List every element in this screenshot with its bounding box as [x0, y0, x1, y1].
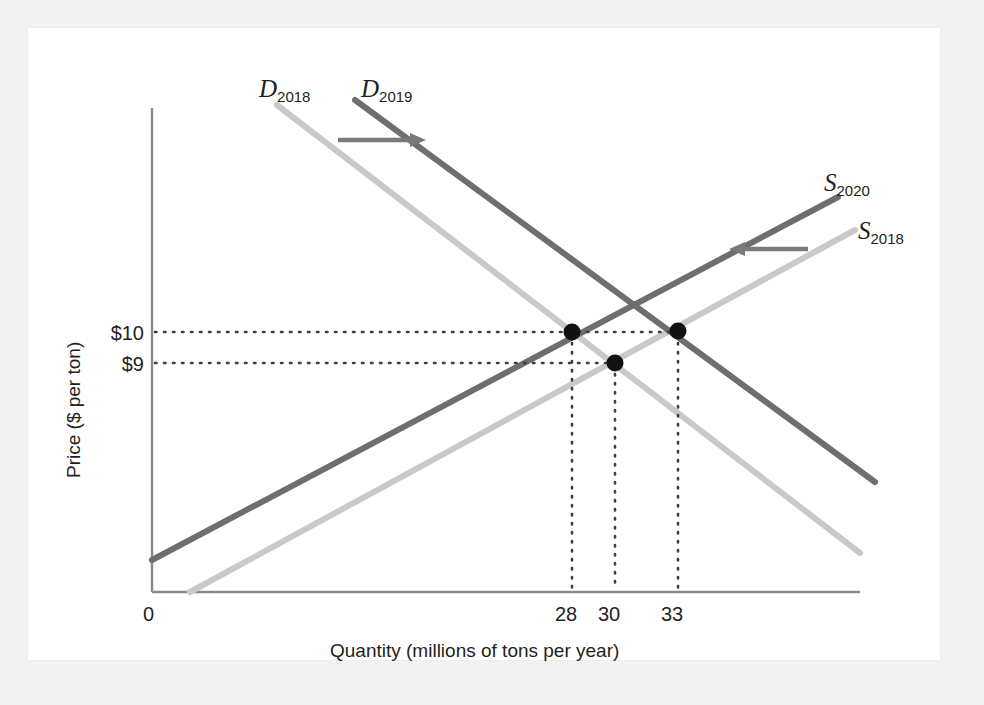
curve-label-supply-2020: S2020: [824, 170, 870, 195]
demand-shift-arrow: [338, 133, 426, 147]
curve-label-base: S: [824, 169, 837, 196]
demand-curve-2019: [355, 100, 875, 482]
curve-label-base: D: [259, 75, 277, 102]
curve-label-sub: 2018: [871, 230, 904, 247]
curve-label-base: D: [361, 75, 379, 102]
x-axis-title: Quantity (millions of tons per year): [330, 641, 619, 660]
curve-label-sub: 2020: [837, 182, 870, 199]
y-axis-title: Price ($ per ton): [64, 342, 83, 478]
supply-demand-chart: D2018 D2019 S2020 S2018 $10 $9 28 30 33 …: [28, 28, 940, 660]
curve-label-demand-2018: D2018: [259, 76, 310, 101]
equilibrium-point-30-9: [607, 355, 624, 372]
supply-shift-arrow: [729, 242, 808, 256]
axes: [152, 108, 860, 592]
figure-root: D2018 D2019 S2020 S2018 $10 $9 28 30 33 …: [0, 0, 984, 705]
equilibrium-point-28-10: [564, 324, 581, 341]
curve-label-base: S: [858, 217, 871, 244]
curve-label-sub: 2018: [277, 88, 310, 105]
equilibrium-point-33-10: [670, 323, 687, 340]
y-tick-label-10: $10: [60, 323, 144, 343]
supply-curve-2018: [190, 230, 855, 592]
x-tick-label-30: 30: [598, 604, 620, 624]
curve-label-demand-2019: D2019: [361, 76, 412, 101]
origin-label: 0: [143, 604, 154, 624]
x-tick-label-28: 28: [555, 604, 577, 624]
page-sheet: D2018 D2019 S2020 S2018 $10 $9 28 30 33 …: [28, 28, 940, 660]
chart-canvas: [28, 28, 940, 660]
curve-label-supply-2018: S2018: [858, 218, 904, 243]
curve-label-sub: 2019: [379, 88, 412, 105]
x-tick-label-33: 33: [661, 604, 683, 624]
